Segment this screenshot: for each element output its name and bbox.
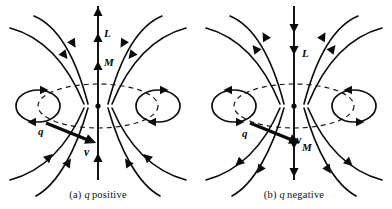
field-arrow-right-lower-outer-a	[140, 151, 153, 164]
caption-word-b: negative	[285, 189, 324, 200]
axis-arrow-top-a	[93, 7, 102, 16]
caption-panel-a: (a)qpositive	[0, 189, 196, 200]
label-M-b: M	[301, 141, 313, 153]
label-L-b: L	[301, 47, 309, 59]
panel-q-negative: L M q v	[196, 0, 392, 209]
field-arrow-left-lower-outer-a	[43, 151, 56, 164]
field-line-right-lower-outer-b	[308, 108, 382, 180]
field-line-left-lower-outer-a	[10, 108, 84, 180]
axis-arrow-middle-a	[93, 61, 102, 70]
field-line-left-upper-outer-b	[206, 28, 280, 104]
label-v-a: v	[84, 146, 90, 158]
field-line-left-lower-outer-b	[206, 108, 280, 180]
axis-arrow-upper-b	[289, 46, 298, 55]
loop-arrow-left-bottom-a	[28, 118, 37, 126]
axis-arrow-bottom-b	[289, 168, 298, 177]
field-arrow-right-upper-inner-b	[317, 30, 329, 42]
diagram-b: L M q v	[196, 0, 392, 209]
diagram-a: L M q v	[0, 0, 196, 209]
charge-point-a	[95, 103, 100, 108]
charge-point-b	[291, 103, 296, 108]
label-L-a: L	[103, 27, 111, 39]
field-line-right-lower-outer-a	[112, 108, 186, 180]
field-line-right-upper-outer-b	[308, 28, 382, 104]
caption-word-a: positive	[90, 189, 127, 200]
loop-arrow-right-bottom-a	[148, 118, 157, 126]
caption-symbol-a: q	[81, 189, 89, 200]
label-q-b: q	[242, 127, 248, 139]
figure-root: L M q v	[0, 0, 392, 209]
field-arrow-left-upper-inner-a	[67, 38, 79, 50]
loop-arrow-right-bottom-b	[356, 118, 365, 126]
loop-arrow-right-top-a	[160, 86, 169, 94]
axis-arrow-upper-a	[93, 33, 102, 42]
caption-panel-b: (b)qnegative	[196, 189, 392, 200]
field-arrow-left-upper-inner-b	[259, 30, 271, 42]
loop-arrow-left-bottom-b	[236, 118, 245, 126]
label-v-b: v	[296, 134, 302, 146]
axis-arrow-top-b	[289, 24, 298, 33]
loop-arrow-left-top-b	[224, 86, 233, 94]
caption-tag-a: (a)	[69, 189, 81, 200]
panel-q-positive: L M q v	[0, 0, 196, 209]
label-q-a: q	[38, 125, 44, 137]
loop-arrow-right-top-b	[344, 86, 353, 94]
caption-tag-b: (b)	[264, 189, 277, 200]
field-arrow-right-upper-inner-a	[117, 38, 129, 50]
axis-arrow-bottom-a	[93, 153, 102, 162]
label-M-a: M	[103, 56, 115, 68]
caption-symbol-b: q	[277, 189, 285, 200]
loop-arrow-left-top-a	[40, 86, 49, 94]
